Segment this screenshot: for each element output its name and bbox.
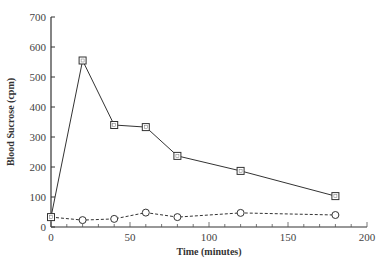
- y-tick-label: 700: [30, 11, 47, 23]
- circle-marker: [332, 212, 339, 219]
- axes: 0100200300400500600700050100150200: [30, 11, 376, 243]
- circle-marker: [237, 209, 244, 216]
- y-axis-title: Blood Sucrose (cpm): [5, 78, 17, 166]
- square-marker: [332, 193, 339, 200]
- y-tick-label: 400: [30, 101, 47, 113]
- square-marker: [237, 167, 244, 174]
- square-marker: [174, 152, 181, 159]
- x-tick-label: 150: [280, 231, 297, 243]
- y-tick-label: 300: [30, 131, 47, 143]
- series-line-square: [51, 61, 335, 218]
- x-tick-label: 0: [48, 231, 54, 243]
- circle-marker: [79, 217, 86, 224]
- square-marker: [142, 124, 149, 131]
- y-tick-label: 0: [41, 221, 47, 233]
- x-tick-label: 50: [125, 231, 137, 243]
- series-layer: [48, 57, 339, 224]
- circle-marker: [142, 209, 149, 216]
- square-marker: [79, 57, 86, 64]
- y-tick-label: 600: [30, 41, 47, 53]
- x-axis-title: Time (minutes): [176, 246, 241, 258]
- blood-sucrose-chart: 0100200300400500600700050100150200 Time …: [0, 0, 385, 271]
- square-marker: [48, 214, 55, 221]
- series-line-circle: [51, 213, 335, 221]
- y-tick-label: 500: [30, 71, 47, 83]
- circle-marker: [174, 214, 181, 221]
- x-tick-label: 100: [201, 231, 218, 243]
- y-tick-label: 100: [30, 191, 47, 203]
- circle-marker: [111, 215, 118, 222]
- y-tick-label: 200: [30, 161, 47, 173]
- square-marker: [111, 122, 118, 129]
- x-tick-label: 200: [359, 231, 376, 243]
